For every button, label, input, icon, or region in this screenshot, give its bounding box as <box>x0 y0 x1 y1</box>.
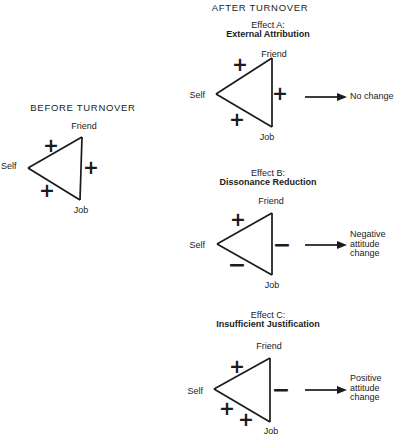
before-sign-self-friend: + <box>43 136 59 155</box>
effect-c-sign-friend-job: − <box>272 379 290 401</box>
effect-c-node-self: Self <box>182 386 203 396</box>
effect-c-sign-self-friend: + <box>229 357 245 376</box>
effect-b-node-job: Job <box>252 280 292 290</box>
effect-b-sign-friend-job: − <box>273 234 291 256</box>
effect-b-outcome: Negative attitude change <box>350 230 396 259</box>
effect-b-name: Dissonance Reduction <box>198 177 338 187</box>
effect-a-sign-self-job: + <box>229 110 245 129</box>
before-turnover-title: BEFORE TURNOVER <box>13 102 153 113</box>
effect-c-sign-self-job-2: + <box>238 410 254 429</box>
after-turnover-title: AFTER TURNOVER <box>180 2 340 13</box>
effect-b-arrow-right-icon <box>304 239 348 251</box>
effect-a-node-self: Self <box>184 90 205 100</box>
effect-b-node-self: Self <box>184 240 205 250</box>
effect-b-sign-self-job: − <box>228 254 246 276</box>
effect-c-name: Insufficient Justification <box>198 319 338 329</box>
before-sign-friend-job: + <box>83 158 99 177</box>
effect-c-outcome: Positive attitude change <box>350 374 396 403</box>
effect-a-outcome: No change <box>350 92 396 102</box>
effect-b-sign-self-friend: + <box>230 210 246 229</box>
before-sign-self-job: + <box>39 181 55 200</box>
effect-a-sign-self-friend: + <box>232 55 248 74</box>
effect-c-sign-self-job-1: + <box>219 399 235 418</box>
balance-theory-figure: AFTER TURNOVER BEFORE TURNOVER Friend Se… <box>0 0 396 440</box>
effect-c-arrow-right-icon <box>304 384 348 396</box>
effect-a-name: External Attribution <box>198 29 338 39</box>
effect-a-node-job: Job <box>247 132 287 142</box>
effect-a-arrow-right-icon <box>304 91 348 103</box>
effect-a-sign-friend-job: + <box>272 84 288 103</box>
